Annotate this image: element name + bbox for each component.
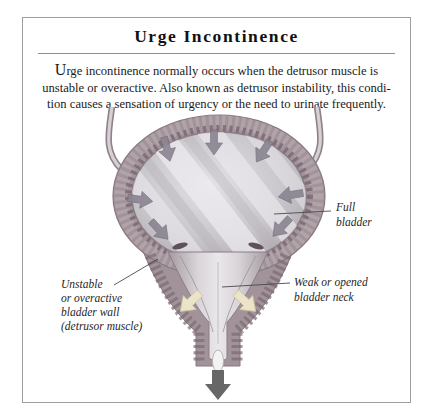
full-bladder-label: Full bladder [336, 200, 372, 230]
page: { "card": { "title": "Urge Incontinence"… [0, 0, 430, 412]
urine-drop [213, 350, 224, 372]
bladder-neck-label: Weak or opened bladder neck [294, 275, 368, 304]
urine-flow-arrow-icon [205, 370, 231, 400]
bladder-wall-label: Unstable or overactive bladder wall (det… [61, 277, 142, 333]
